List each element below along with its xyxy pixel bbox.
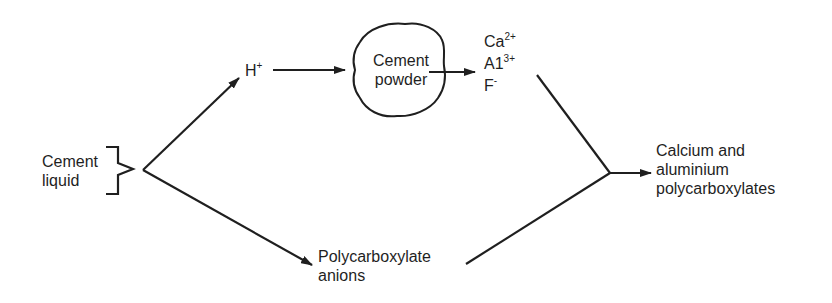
proton-label: H+ bbox=[245, 61, 262, 80]
ion-aluminium: A13+ bbox=[484, 53, 516, 75]
cement-liquid-bracket bbox=[106, 147, 133, 194]
arrow-liquid-to-h bbox=[143, 78, 239, 170]
cement-powder-label: Cement powder bbox=[365, 51, 437, 89]
arrow-liquid-to-anions bbox=[143, 170, 312, 265]
ion-list: Ca2+ A13+ F- bbox=[484, 31, 516, 97]
polycarboxylate-anions-label: Polycarboxylate anions bbox=[318, 247, 431, 285]
line-ions-to-junction bbox=[537, 75, 610, 173]
ion-calcium: Ca2+ bbox=[484, 31, 516, 53]
line-anions-to-junction bbox=[466, 173, 610, 264]
ion-fluoride: F- bbox=[484, 75, 516, 97]
product-label: Calcium and aluminium polycarboxylates bbox=[656, 141, 775, 198]
cement-liquid-label: Cement liquid bbox=[42, 152, 98, 190]
